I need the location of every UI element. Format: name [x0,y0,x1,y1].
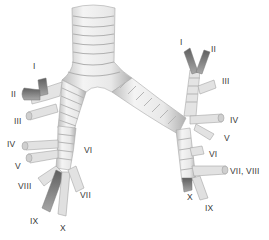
label-right-I: I [180,38,183,47]
left-main-bronchus [112,48,224,140]
label-left-I: I [33,62,36,71]
label-left-VIII: VIII [18,182,32,191]
label-left-VII: VII [80,191,91,200]
label-right-IV: IV [230,116,238,125]
label-left-V: V [15,162,21,171]
label-left-X: X [60,224,66,233]
label-right-V: V [224,134,230,143]
label-right-II: II [211,45,216,54]
label-right-VI: VI [209,150,217,159]
bronchial-tree-illustration [0,0,269,240]
label-left-VI: VI [84,146,92,155]
trachea [62,5,132,92]
left-lower-branches [176,128,228,200]
label-right-IX: IX [205,204,213,213]
label-left-II: II [11,90,16,99]
label-right-VII-VIII: VII, VIII [230,167,260,176]
label-right-III: III [222,77,230,86]
label-left-III: III [14,117,22,126]
right-lower-branches [22,126,84,216]
label-right-X: X [187,193,193,202]
label-left-IV: IV [7,140,15,149]
label-left-IX: IX [30,217,38,226]
